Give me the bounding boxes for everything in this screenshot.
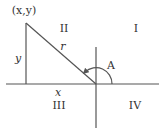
vertical-side-label-y: y bbox=[15, 53, 21, 64]
quadrant-II-label: II bbox=[60, 23, 69, 34]
point-label: (x,y) bbox=[12, 5, 37, 16]
angle-label-A: A bbox=[107, 60, 115, 71]
quadrant-I-label: I bbox=[134, 23, 138, 34]
hypotenuse-label-r: r bbox=[60, 41, 65, 52]
horizontal-side-label-x: x bbox=[55, 87, 61, 98]
quadrant-III-label: III bbox=[52, 100, 65, 111]
trig-quadrant-diagram: (x,y) II I r y A x III IV bbox=[0, 0, 161, 128]
quadrant-IV-label: IV bbox=[129, 100, 141, 111]
